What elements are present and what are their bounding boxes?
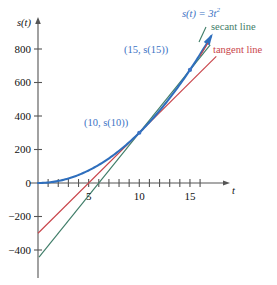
graph-figure: s(t) t 8006004002000−200−400 51015 s(t) … <box>0 0 277 285</box>
secant-legend-tick <box>199 27 206 42</box>
y-tick-label: 600 <box>0 77 31 88</box>
point-label-15: (15, s(15)) <box>124 45 168 56</box>
y-tick-label: −200 <box>0 211 31 222</box>
x-axis-arrow <box>223 180 230 185</box>
y-tick-label: −400 <box>0 245 31 256</box>
x-axis-label: t <box>232 186 235 197</box>
y-tick-label: 200 <box>0 144 31 155</box>
curve-arrowhead <box>204 33 213 45</box>
function-equation-label: s(t) = 3t2 <box>182 7 220 19</box>
function-curve <box>38 36 211 183</box>
plot-canvas <box>0 0 277 285</box>
y-tick-label: 400 <box>0 111 31 122</box>
legend-item-secant: secant line <box>211 22 256 33</box>
point-label-10: (10, s(10)) <box>84 118 128 129</box>
legend-item-tangent: tangent line <box>213 45 262 56</box>
x-tick-label: 15 <box>176 191 204 202</box>
x-tick-label: 5 <box>75 191 103 202</box>
y-tick-label: 800 <box>0 44 31 55</box>
y-axis-label: s(t) <box>17 18 31 29</box>
y-tick-label: 0 <box>0 178 31 189</box>
y-axis-arrow <box>35 17 41 24</box>
x-tick-label: 10 <box>125 191 153 202</box>
